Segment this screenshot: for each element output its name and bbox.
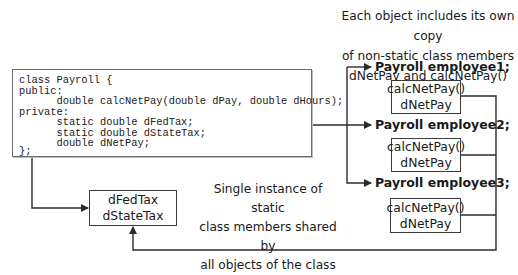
object-label-employee2: Payroll employee2; [375,118,510,132]
object-members-employee2: calcNetPay() dNetPay [391,138,461,172]
static-members-box: dFedTax dStateTax [89,190,177,226]
object-label-employee3: Payroll employee3; [375,176,510,190]
object-members-employee3: calcNetPay() dNetPay [390,198,461,233]
class-code-box: class Payroll { public: double calcNetPa… [12,69,312,157]
object-members-employee1: calcNetPay() dNetPay [391,80,461,114]
code-line: }; [19,146,31,157]
static-caption: Single instance of static class members … [198,180,338,275]
nonstatic-caption: Each object includes its own copy of non… [338,6,518,86]
object-label-employee1: Payroll employee1; [375,60,510,74]
code-line: double dNetPay; [19,138,150,149]
